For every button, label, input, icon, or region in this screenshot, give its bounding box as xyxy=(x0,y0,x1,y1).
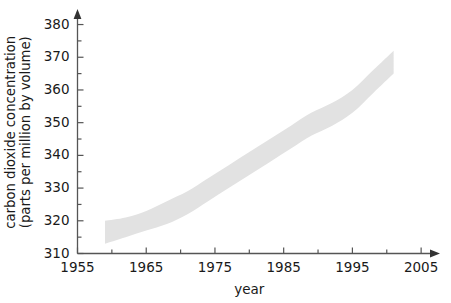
y-axis-title-line-1: carbon dioxide concentration xyxy=(4,20,19,244)
y-axis-arrow-icon xyxy=(74,9,82,19)
data-band-group xyxy=(105,51,394,244)
y-axis-title: carbon dioxide concentration (parts per … xyxy=(4,20,34,244)
x-tick-label: 1985 xyxy=(260,259,308,275)
y-axis-title-line-2: (parts per million by volume) xyxy=(19,20,34,244)
y-axis-ticks xyxy=(78,25,84,254)
x-axis-title: year xyxy=(209,281,289,297)
x-tick-label: 1995 xyxy=(328,259,376,275)
x-tick-label: 1965 xyxy=(122,259,170,275)
x-tick-label: 1955 xyxy=(54,259,102,275)
co2-concentration-chart: 310320330340350360370380 195519651975198… xyxy=(0,0,451,303)
co2-data-band xyxy=(105,51,394,244)
x-tick-label: 1975 xyxy=(191,259,239,275)
x-axis-arrow-icon xyxy=(430,250,440,258)
x-tick-label: 2005 xyxy=(397,259,445,275)
y-axis-title-wrapper: carbon dioxide concentration (parts per … xyxy=(0,0,42,262)
x-axis-ticks xyxy=(78,248,422,254)
